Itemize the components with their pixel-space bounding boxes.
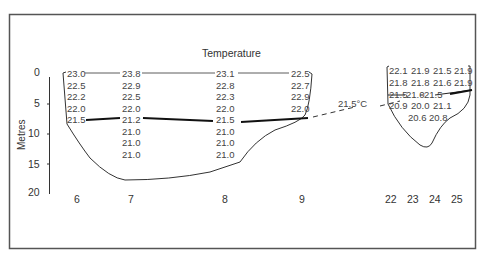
left-basin-values: 23.0 22.5 22.2 22.0 21.5 23.8 22.9 22.5 … <box>67 68 310 160</box>
temp-value: 20.6 <box>408 112 427 123</box>
temp-value: 21.0 <box>216 126 235 137</box>
temp-value: 21.5 <box>389 89 408 100</box>
temp-value: 21.5 <box>67 114 86 125</box>
temp-value: 21.9 <box>411 65 430 76</box>
temp-value: 21.5 <box>433 65 452 76</box>
temp-value: 20.8 <box>429 112 448 123</box>
temp-value: 23.1 <box>216 68 235 79</box>
isotherm-line-right-thick <box>450 90 472 94</box>
y-tick-label: 15 <box>28 158 40 170</box>
temp-value: 22.8 <box>216 80 235 91</box>
temp-value: 20.0 <box>411 100 430 111</box>
temp-value: 21.0 <box>406 89 425 100</box>
temp-value: 21.9 <box>454 77 473 88</box>
temp-value: 22.5 <box>291 68 310 79</box>
y-tick-label: 0 <box>34 66 40 78</box>
temp-value: 22.0 <box>67 103 86 114</box>
x-label-station: 24 <box>429 193 441 205</box>
temp-value: 22.2 <box>67 91 86 102</box>
left-basin-outline <box>63 72 312 180</box>
temp-value: 21.0 <box>216 137 235 148</box>
temp-value: 22.1 <box>389 65 408 76</box>
y-tick-label: 5 <box>34 97 40 109</box>
temp-value: 21.0 <box>122 149 141 160</box>
temp-value: 23.0 <box>67 68 86 79</box>
y-tick-label: 10 <box>28 127 40 139</box>
y-axis-label: Metres <box>16 119 27 150</box>
temp-value: 22.7 <box>291 80 310 91</box>
temp-value: 21.8 <box>411 77 430 88</box>
x-label-station: 23 <box>407 193 419 205</box>
x-label-station: 22 <box>385 193 397 205</box>
temp-value: 21.9 <box>454 65 473 76</box>
temp-value: 20.9 <box>389 100 408 111</box>
temp-value: 21.0 <box>122 137 141 148</box>
x-label-station: 8 <box>222 193 228 205</box>
temp-value: 22.9 <box>291 91 310 102</box>
temp-value: 22.0 <box>216 103 235 114</box>
diagram-title: Temperature <box>202 47 261 59</box>
temp-value: 21.8 <box>389 77 408 88</box>
temp-value: 21.6 <box>433 77 452 88</box>
temperature-depth-diagram: Temperature 0 5 10 15 20 Metres 6 7 8 9 … <box>0 0 483 256</box>
x-label-station: 9 <box>299 193 305 205</box>
temp-value: 23.8 <box>122 68 141 79</box>
temp-value: 22.5 <box>122 91 141 102</box>
temp-value: 22.5 <box>67 80 86 91</box>
temp-value: 22.3 <box>216 91 235 102</box>
temp-value: 22.9 <box>122 80 141 91</box>
temp-value: 21.0 <box>122 126 141 137</box>
x-label-station: 25 <box>451 193 463 205</box>
isotherm-line <box>86 118 308 122</box>
y-tick-label: 20 <box>28 186 40 198</box>
temp-value: 21.5 <box>424 89 443 100</box>
x-label-station: 6 <box>74 193 80 205</box>
temp-value: 21.2 <box>122 114 141 125</box>
isotherm-label: 21.5°C <box>338 98 367 109</box>
temp-value: 22.0 <box>122 103 141 114</box>
right-basin-values: 22.1 21.8 21.5 20.9 21.9 21.8 21.0 20.0 … <box>389 65 473 123</box>
temp-value: 22.0 <box>291 103 310 114</box>
temp-value: 21.1 <box>433 100 452 111</box>
temp-value: 21.0 <box>216 149 235 160</box>
x-label-station: 7 <box>128 193 134 205</box>
temp-value: 21.5 <box>216 114 235 125</box>
